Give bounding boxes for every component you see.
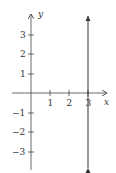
y-tick-label-2: 2 — [20, 49, 26, 59]
y-axis-label: y — [37, 9, 44, 19]
coordinate-plane: y x 1 2 3 3 2 1 −1 −2 −3 — [0, 0, 116, 173]
x-tick-label-3: 3 — [86, 98, 92, 108]
y-tick-label-3: 3 — [20, 30, 26, 40]
y-tick-label-1: 1 — [20, 69, 26, 79]
y-tick-label-neg1: −1 — [12, 108, 25, 118]
x-axis-label: x — [104, 97, 109, 107]
x-tick-label-1: 1 — [48, 98, 54, 108]
x-tick-label-2: 2 — [67, 98, 73, 108]
y-tick-label-neg2: −2 — [12, 127, 25, 137]
y-tick-label-neg3: −3 — [12, 147, 26, 157]
